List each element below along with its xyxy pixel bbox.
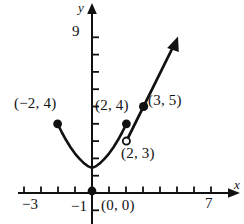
point-label-3-5: (3, 5) xyxy=(148,93,182,108)
point-marker-neg2-4 xyxy=(53,119,62,128)
y-axis-label: y xyxy=(78,1,84,14)
point-label-0-0: (0, 0) xyxy=(101,198,135,213)
y-tick-label-9: 9 xyxy=(72,24,80,39)
graph-figure: (−2, 4) (2, 4) (2, 3) (3, 5) (0, 0) −3 −… xyxy=(0,0,244,224)
y-axis-ticks xyxy=(92,37,99,210)
axes-group xyxy=(18,3,240,224)
x-axis-label: x xyxy=(234,178,240,191)
point-marker-2-4 xyxy=(122,119,131,128)
x-tick-label-neg3: −3 xyxy=(22,197,38,212)
point-marker-0-0 xyxy=(88,187,97,196)
y-axis-arrowhead xyxy=(87,3,97,14)
point-label-2-4: (2, 4) xyxy=(95,98,129,113)
x-tick-label-neg1: −1 xyxy=(71,199,87,214)
x-tick-label-7: 7 xyxy=(205,196,213,211)
ray-arrowhead xyxy=(167,37,179,53)
point-label-2-3: (2, 3) xyxy=(121,146,155,161)
point-marker-2-3-open xyxy=(123,138,130,145)
point-label-neg2-4: (−2, 4) xyxy=(14,96,56,111)
point-marker-3-5 xyxy=(139,102,148,111)
